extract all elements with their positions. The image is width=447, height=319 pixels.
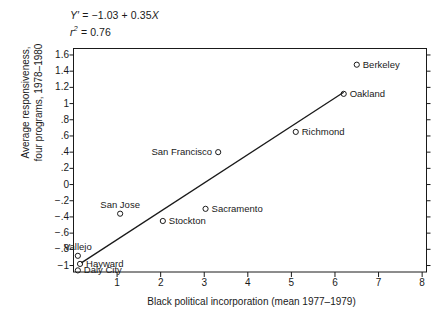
plot-canvas — [0, 0, 447, 319]
data-point-marker — [203, 206, 208, 211]
data-point-marker — [216, 150, 221, 155]
regression-line — [81, 92, 343, 263]
data-point-marker — [77, 261, 82, 266]
data-point-marker — [354, 62, 359, 67]
data-point-marker — [118, 211, 123, 216]
data-point-marker — [160, 218, 165, 223]
tick-marks — [70, 55, 431, 277]
data-point-marker — [75, 253, 80, 258]
data-points — [75, 62, 359, 273]
fit-line — [81, 92, 343, 263]
scatter-plot-figure: Y′ = −1.03 + 0.35X r2 = 0.76 Average res… — [0, 0, 447, 319]
data-point-marker — [293, 129, 298, 134]
axes-frame — [74, 49, 427, 273]
